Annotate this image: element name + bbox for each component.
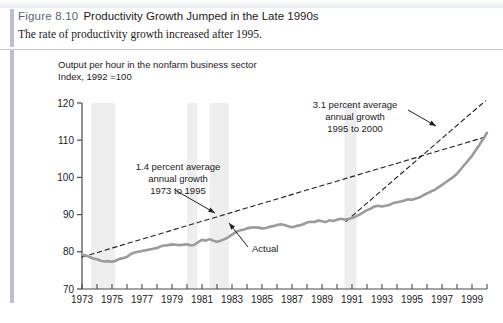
figure-caption-block: Figure 8.10Productivity Growth Jumped in… bbox=[18, 8, 488, 42]
x-axis-tick-label: 1977 bbox=[131, 294, 154, 305]
trend-1995-2000-annotation: 3.1 percent averageannual growth1995 to … bbox=[313, 99, 436, 134]
annotation-arrowhead bbox=[429, 121, 436, 126]
figure-container: Figure 8.10Productivity Growth Jumped in… bbox=[0, 0, 503, 323]
annotation-text-line: 1995 to 2000 bbox=[327, 123, 382, 134]
annotation-text-line: 1973 to 1995 bbox=[150, 185, 205, 196]
trend-1973-1995-annotation: 1.4 percent averageannual growth1973 to … bbox=[136, 161, 221, 213]
page-title: Productivity Growth Jumped in the Late 1… bbox=[83, 10, 318, 22]
x-axis-tick-label: 1997 bbox=[431, 294, 454, 305]
productivity-line-chart: 1.4 percent averageannual growth1973 to … bbox=[0, 50, 503, 305]
annotation-text-line: annual growth bbox=[148, 173, 208, 184]
x-axis-tick-label: 1979 bbox=[161, 294, 184, 305]
y-axis-tick-label: 110 bbox=[58, 135, 74, 146]
figure-title-line: Figure 8.10Productivity Growth Jumped in… bbox=[18, 8, 488, 24]
axes-layer bbox=[77, 103, 487, 289]
annotation-text-line: Actual bbox=[252, 243, 278, 254]
x-axis-tick-label: 1995 bbox=[401, 294, 424, 305]
annotations-layer: 1.4 percent averageannual growth1973 to … bbox=[136, 99, 436, 254]
y-axis-tick-label: 80 bbox=[63, 246, 75, 257]
header-band bbox=[0, 0, 503, 8]
figure-number: Figure 8.10 bbox=[18, 10, 78, 22]
y-axis-tick-label: 70 bbox=[63, 284, 75, 295]
annotation-text-line: annual growth bbox=[325, 111, 385, 122]
recession-1981-1982 bbox=[210, 103, 230, 289]
recession-bands-layer bbox=[91, 103, 357, 289]
x-axis-tick-label: 1993 bbox=[371, 294, 394, 305]
x-axis-tick-label: 1985 bbox=[251, 294, 274, 305]
x-axis-tick-label: 1981 bbox=[191, 294, 214, 305]
x-axis-tick-label: 1975 bbox=[101, 294, 124, 305]
x-axis-tick-label: 1973 bbox=[71, 294, 94, 305]
header-accent-bar bbox=[10, 9, 14, 47]
chart-area: Output per hour in the nonfarm business … bbox=[0, 50, 503, 305]
annotation-text-line: 3.1 percent average bbox=[313, 99, 398, 110]
x-axis-tick-label: 1987 bbox=[281, 294, 304, 305]
x-axis-tick-label: 1983 bbox=[221, 294, 244, 305]
recession-1980 bbox=[187, 103, 198, 289]
x-axis-tick-label: 1999 bbox=[461, 294, 484, 305]
y-axis-tick-label: 100 bbox=[57, 172, 74, 183]
trend-lines-layer bbox=[82, 101, 487, 257]
x-axis-tick-label: 1991 bbox=[341, 294, 364, 305]
y-axis-tick-label: 120 bbox=[57, 98, 74, 109]
annotation-text-line: 1.4 percent average bbox=[136, 161, 221, 172]
y-axis-tick-label: 90 bbox=[63, 209, 75, 220]
figure-subtitle: The rate of productivity growth increase… bbox=[18, 26, 488, 42]
trend-line bbox=[82, 136, 487, 257]
x-axis-tick-label: 1989 bbox=[311, 294, 334, 305]
